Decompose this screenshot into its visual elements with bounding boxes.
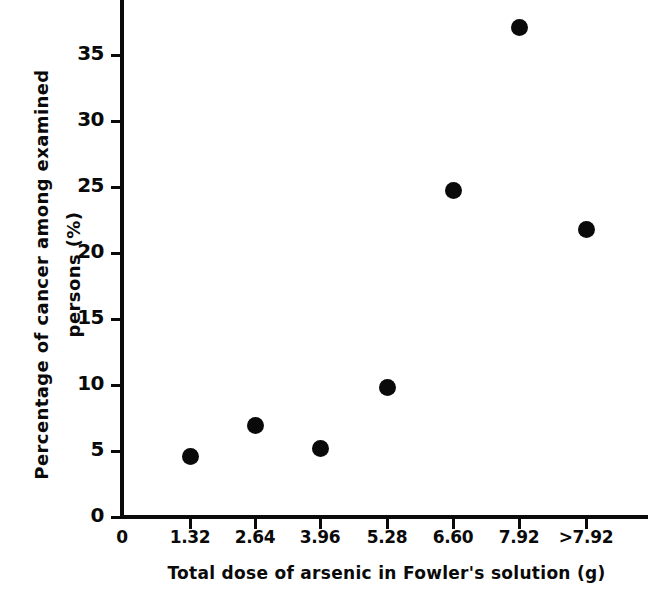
y-tick-mark	[111, 186, 120, 189]
y-axis-title-line2: persons (%)	[57, 50, 89, 500]
data-point	[312, 440, 329, 457]
y-axis-line	[120, 0, 124, 519]
data-point	[578, 221, 595, 238]
data-point	[511, 19, 528, 36]
y-tick-mark	[111, 384, 120, 387]
y-tick-mark	[111, 516, 120, 519]
data-point	[445, 182, 462, 199]
y-tick-label: 0	[60, 503, 104, 527]
y-tick-mark	[111, 450, 120, 453]
scatter-chart: 05101520253035 01.322.643.965.286.607.92…	[0, 0, 653, 603]
y-tick-mark	[111, 120, 120, 123]
x-tick-label: >7.92	[546, 527, 626, 547]
y-tick-mark	[111, 54, 120, 57]
x-axis-line	[120, 515, 648, 519]
y-axis-title: Percentage of cancer among examined pers…	[26, 50, 89, 500]
data-point	[182, 448, 199, 465]
y-axis-title-line1: Percentage of cancer among examined	[26, 50, 58, 500]
x-axis-title: Total dose of arsenic in Fowler's soluti…	[120, 563, 653, 583]
data-point	[379, 379, 396, 396]
y-tick-mark	[111, 318, 120, 321]
y-tick-mark	[111, 252, 120, 255]
data-point	[247, 417, 264, 434]
